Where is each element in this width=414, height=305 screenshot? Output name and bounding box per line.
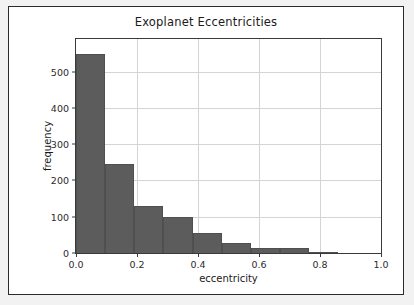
x-tick-label: 1.0	[361, 259, 401, 270]
gridline-vertical	[320, 39, 321, 253]
x-tick-label: 0.2	[117, 259, 157, 270]
x-tick-mark	[320, 253, 321, 257]
x-tick-mark	[76, 253, 77, 257]
x-tick-mark	[259, 253, 260, 257]
histogram-bar	[222, 243, 251, 253]
gridline-horizontal	[76, 144, 381, 145]
y-tick-label: 100	[42, 211, 76, 222]
x-tick-label: 0.6	[239, 259, 279, 270]
figure-frame: Exoplanet Eccentricities 010020030040050…	[8, 6, 404, 295]
gridline-horizontal	[76, 108, 381, 109]
y-tick-label: 200	[42, 175, 76, 186]
plot-area: 0100200300400500 0.00.20.40.60.81.0 ecce…	[75, 38, 382, 254]
y-axis-label: frequency	[42, 121, 53, 171]
x-axis-label: eccentricity	[199, 273, 258, 284]
histogram-bar	[134, 206, 163, 253]
x-tick-label: 0.4	[178, 259, 218, 270]
y-tick-mark	[72, 144, 76, 145]
histogram-bar	[105, 164, 134, 253]
gridline-vertical	[198, 39, 199, 253]
y-tick-label: 500	[42, 66, 76, 77]
histogram-bar	[251, 248, 280, 253]
x-tick-label: 0.8	[300, 259, 340, 270]
x-tick-mark	[198, 253, 199, 257]
y-tick-mark	[72, 107, 76, 108]
histogram-bar	[163, 217, 192, 253]
y-tick-label: 400	[42, 102, 76, 113]
y-tick-mark	[72, 180, 76, 181]
histogram-bar	[193, 233, 222, 253]
x-tick-mark	[381, 253, 382, 257]
histogram-bar	[309, 252, 338, 253]
x-tick-label: 0.0	[56, 259, 96, 270]
x-tick-mark	[137, 253, 138, 257]
histogram-bar	[76, 54, 105, 253]
gridline-vertical	[259, 39, 260, 253]
chart-title: Exoplanet Eccentricities	[9, 15, 403, 29]
y-tick-label: 0	[42, 248, 76, 259]
y-tick-mark	[72, 71, 76, 72]
histogram-bar	[280, 248, 309, 253]
gridline-horizontal	[76, 72, 381, 73]
y-tick-mark	[72, 216, 76, 217]
